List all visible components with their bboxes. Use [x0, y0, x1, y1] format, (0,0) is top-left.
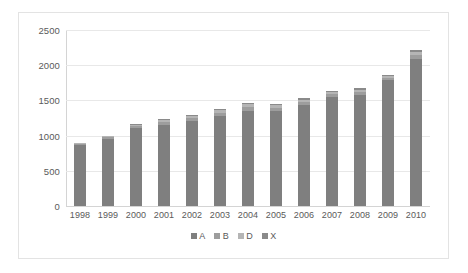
legend-item-label: B	[223, 231, 229, 241]
x-axis-tick-label: 2009	[378, 210, 398, 220]
y-axis-tick-label: 1000	[38, 130, 60, 141]
bar-column[interactable]	[158, 119, 170, 206]
gridline	[66, 30, 430, 31]
x-axis-tick-label: 2002	[182, 210, 202, 220]
x-axis-tick-label: 2000	[126, 210, 146, 220]
legend-swatch-icon	[214, 233, 220, 239]
x-axis-tick-label: 1998	[70, 210, 90, 220]
gridline	[66, 65, 430, 66]
bar-column[interactable]	[186, 115, 198, 207]
x-axis-tick-label: 1999	[98, 210, 118, 220]
bar-column[interactable]	[382, 75, 394, 206]
bar-segment-a[interactable]	[242, 111, 254, 206]
legend-item-x[interactable]: X	[262, 231, 277, 241]
bar-column[interactable]	[270, 104, 282, 206]
axis-baseline	[66, 206, 430, 207]
legend-item-label: X	[270, 231, 276, 241]
bar-segment-a[interactable]	[158, 125, 170, 206]
legend-item-b[interactable]: B	[214, 231, 229, 241]
gridline	[66, 100, 430, 101]
bar-segment-a[interactable]	[382, 80, 394, 206]
bar-segment-a[interactable]	[102, 139, 114, 206]
bar-column[interactable]	[242, 103, 254, 206]
y-axis-tick-label: 1500	[38, 95, 60, 106]
x-axis-tick-label: 2003	[210, 210, 230, 220]
chart-legend: ABDX	[19, 231, 448, 241]
y-axis-tick-label: 2000	[38, 60, 60, 71]
bar-column[interactable]	[326, 91, 338, 206]
x-axis-tick-label: 2001	[154, 210, 174, 220]
bar-column[interactable]	[130, 124, 142, 206]
bar-segment-a[interactable]	[410, 59, 422, 206]
bar-segment-a[interactable]	[186, 121, 198, 206]
bar-column[interactable]	[214, 109, 226, 206]
bar-column[interactable]	[74, 143, 86, 206]
plot-area: 05001000150020002500 1998199920002001200…	[66, 30, 430, 206]
bar-segment-a[interactable]	[74, 145, 86, 206]
bar-segment-a[interactable]	[298, 105, 310, 206]
bar-segment-a[interactable]	[270, 111, 282, 206]
bar-segment-a[interactable]	[326, 97, 338, 206]
bar-segment-a[interactable]	[354, 95, 366, 206]
x-axis-tick-label: 2010	[406, 210, 426, 220]
legend-swatch-icon	[238, 233, 244, 239]
bar-column[interactable]	[354, 88, 366, 206]
chart-container: 05001000150020002500 1998199920002001200…	[18, 12, 449, 259]
y-axis-line	[66, 30, 67, 206]
bar-column[interactable]	[410, 50, 422, 206]
legend-swatch-icon	[262, 233, 268, 239]
y-axis-tick-label: 500	[44, 165, 60, 176]
bar-column[interactable]	[298, 98, 310, 206]
x-axis-tick-label: 2006	[294, 210, 314, 220]
legend-item-a[interactable]: A	[191, 231, 206, 241]
legend-item-label: A	[199, 231, 205, 241]
x-axis-tick-label: 2008	[350, 210, 370, 220]
bar-segment-a[interactable]	[214, 116, 226, 206]
legend-swatch-icon	[191, 233, 197, 239]
x-axis-tick-label: 2005	[266, 210, 286, 220]
y-axis-tick-label: 0	[55, 201, 60, 212]
bar-segment-a[interactable]	[130, 128, 142, 206]
y-axis-tick-label: 2500	[38, 25, 60, 36]
legend-item-label: D	[246, 231, 253, 241]
legend-item-d[interactable]: D	[238, 231, 253, 241]
x-axis-tick-label: 2004	[238, 210, 258, 220]
x-axis-tick-label: 2007	[322, 210, 342, 220]
bar-column[interactable]	[102, 136, 114, 206]
